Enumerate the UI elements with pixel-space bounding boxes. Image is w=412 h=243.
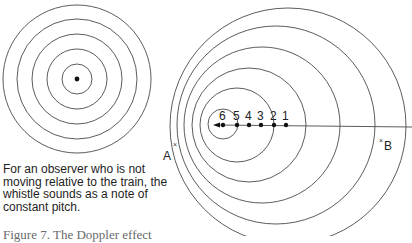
stationary-source-panel (3, 5, 151, 153)
observer-b-label: B (384, 139, 392, 153)
stationary-observer-description: For an observer who is not moving relati… (3, 163, 173, 213)
position-dot-2 (272, 123, 276, 127)
source-dot (75, 77, 80, 82)
moving-source-panel: 6 5 4 3 2 1 A × B × (163, 8, 412, 236)
position-label-1: 1 (282, 109, 289, 123)
position-dot-6 (221, 123, 225, 127)
position-label-5: 5 (233, 109, 240, 123)
observer-a-marker-icon: × (173, 141, 177, 148)
position-dot-1 (284, 123, 288, 127)
position-dot-3 (259, 123, 263, 127)
observer-a-label: A (163, 149, 171, 163)
position-label-6: 6 (219, 109, 226, 123)
position-dot-5 (235, 123, 239, 127)
position-label-4: 4 (245, 109, 252, 123)
observer-b-marker-icon: × (379, 137, 383, 144)
position-label-2: 2 (270, 109, 277, 123)
position-dot-4 (247, 123, 251, 127)
direction-arrow-icon (213, 123, 220, 128)
position-label-3: 3 (257, 109, 264, 123)
figure-caption: Figure 7. The Doppler effect (3, 227, 152, 243)
